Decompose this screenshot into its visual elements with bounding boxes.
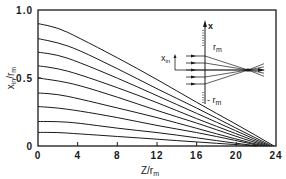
x-tick-label: 8 [114,150,121,161]
ray-curve [38,78,266,146]
ray-curve [38,93,264,146]
x-tick-label: 12 [150,150,163,161]
ray-curve [38,132,256,146]
lens-inset-diagram: x rm xin - rm [161,20,265,106]
x-tick-label: 4 [74,150,81,161]
ray-curves [38,24,274,146]
inset-xin-label: xin [161,53,170,64]
x-tick-label: 24 [269,150,282,161]
ray-curve [38,39,272,146]
inset-x-label: x [208,21,213,31]
y-tick-label: 0.5 [16,73,33,84]
inset-rm-label: rm [213,42,222,53]
incoming-rays [186,55,264,86]
x-tick-label: 16 [190,150,203,161]
x-tick-label: 0 [35,150,42,161]
inset-neg-rm-label: - rm [207,95,222,106]
ray-curve [38,107,261,146]
y-tick-label: 1.0 [16,5,33,16]
svg-text:Z/rm: Z/rm [141,165,159,177]
x-tick-label: 20 [230,150,243,161]
ray-trajectory-chart: 04812162024 00.51.0 xin/rm Z/rm x rm xin… [0,0,286,179]
svg-text:xin/rm: xin/rm [5,67,17,90]
y-axis-ticks: 00.51.0 [16,5,41,152]
x-axis-label: Z/rm [141,165,159,177]
y-axis-label: xin/rm [5,67,17,90]
arrow-up-icon [203,20,207,27]
ray-curve [38,24,274,146]
y-tick-label: 0 [26,141,33,152]
